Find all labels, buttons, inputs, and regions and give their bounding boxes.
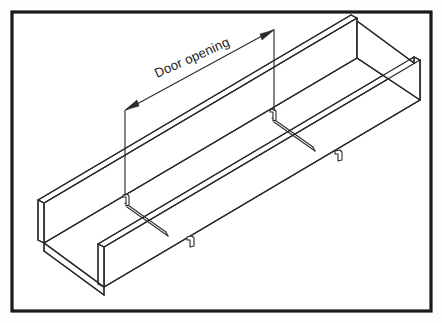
technical-drawing-canvas: Door opening — [0, 0, 442, 323]
front-rail-end-thickness — [98, 244, 104, 287]
figure-root: Door opening — [0, 0, 442, 323]
rear-rail-end-thickness — [38, 200, 44, 243]
